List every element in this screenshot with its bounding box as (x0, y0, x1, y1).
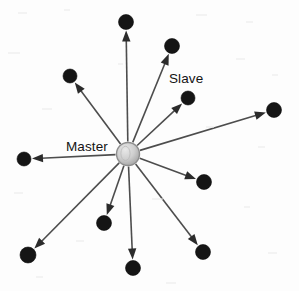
slave-node-7[interactable] (197, 175, 212, 190)
edge-master-to-slave-9 (41, 163, 120, 242)
edge-master-to-slave-2 (133, 62, 166, 142)
slave-nodes-layer (17, 15, 282, 276)
arrowhead-slave-10 (128, 248, 136, 259)
arrowhead-slave-5 (254, 112, 266, 120)
slave-node-11[interactable] (196, 245, 211, 260)
slave-node-5[interactable] (267, 103, 282, 118)
slave-node-8[interactable] (97, 216, 112, 231)
slave-node-2[interactable] (165, 39, 180, 54)
master-slave-topology-svg: Master Slave (0, 0, 299, 291)
slave-node-6[interactable] (17, 152, 31, 166)
edge-master-to-slave-5 (140, 115, 257, 150)
slave-node-9[interactable] (20, 247, 36, 263)
slave-node-3[interactable] (63, 69, 77, 83)
labels-layer: Master Slave (66, 71, 203, 154)
edge-master-to-slave-10 (129, 166, 133, 250)
slave-node-4[interactable] (181, 91, 195, 105)
arrowhead-slave-6 (32, 154, 43, 162)
master-node-group[interactable] (117, 143, 140, 166)
arrowhead-slave-2 (161, 54, 169, 66)
slave-node-10[interactable] (126, 261, 141, 276)
edge-master-to-slave-4 (137, 110, 175, 146)
edge-master-to-slave-8 (110, 166, 124, 207)
arrowhead-slave-7 (184, 171, 196, 179)
edge-master-to-slave-1 (126, 40, 128, 142)
edge-master-to-slave-3 (80, 90, 120, 144)
diagram-canvas: Master Slave (0, 0, 299, 291)
master-node[interactable] (117, 143, 140, 166)
edge-master-to-slave-7 (140, 158, 188, 176)
arrowhead-slave-3 (75, 82, 85, 93)
slave-label: Slave (169, 71, 203, 86)
arrowhead-slave-8 (106, 203, 114, 215)
edge-master-to-slave-6 (41, 155, 116, 159)
master-label: Master (66, 139, 108, 154)
slave-node-1[interactable] (119, 15, 134, 30)
arrowhead-slave-1 (122, 31, 130, 42)
arrowhead-slave-11 (188, 234, 198, 245)
